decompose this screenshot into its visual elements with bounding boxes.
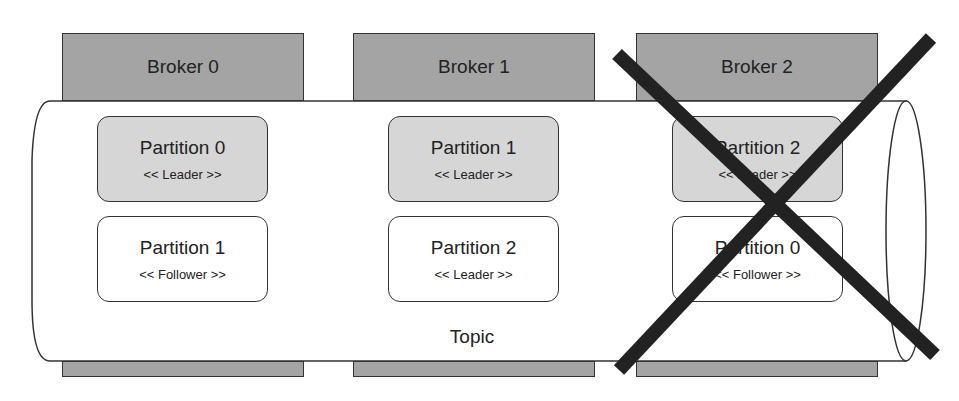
broker-0-header: Broker 0 [62, 33, 304, 101]
broker-1-header: Broker 1 [353, 33, 595, 101]
partition-name: Partition 0 [140, 137, 226, 159]
partition-role: << Leader >> [718, 167, 796, 182]
broker-1-base [353, 361, 595, 377]
broker-2-header: Broker 2 [636, 33, 878, 101]
broker-0-partition-1-follower: Partition 1 << Follower >> [97, 216, 268, 302]
partition-role: << Leader >> [434, 167, 512, 182]
partition-role: << Leader >> [143, 167, 221, 182]
broker-0-base [62, 361, 304, 377]
broker-2-partition-2-leader: Partition 2 << Leader >> [672, 116, 843, 202]
broker-1-partition-1-leader: Partition 1 << Leader >> [388, 116, 559, 202]
broker-2-base [636, 361, 878, 377]
partition-role: << Follower >> [139, 267, 226, 282]
partition-role: << Follower >> [714, 267, 801, 282]
broker-0-partition-0-leader: Partition 0 << Leader >> [97, 116, 268, 202]
partition-name: Partition 0 [715, 237, 801, 259]
partition-name: Partition 1 [431, 137, 517, 159]
partition-name: Partition 2 [431, 237, 517, 259]
partition-name: Partition 2 [715, 137, 801, 159]
partition-name: Partition 1 [140, 237, 226, 259]
partition-role: << Leader >> [434, 267, 512, 282]
broker-2-partition-0-follower: Partition 0 << Follower >> [672, 216, 843, 302]
broker-1-partition-2-leader: Partition 2 << Leader >> [388, 216, 559, 302]
topic-label: Topic [420, 326, 524, 348]
